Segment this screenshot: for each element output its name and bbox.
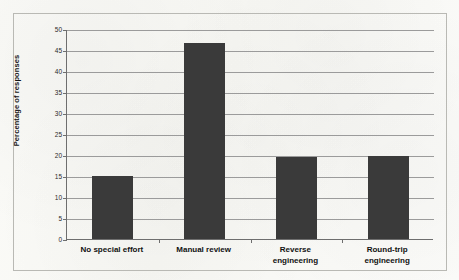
y-axis-tick: [63, 72, 67, 73]
y-axis-tick-label: 40: [40, 69, 62, 76]
y-axis-tick-label: 20: [40, 153, 62, 160]
y-axis-tick-label: 25: [40, 132, 62, 139]
y-axis-tick-label: 35: [40, 90, 62, 97]
x-axis-label-line: Reverse: [250, 245, 342, 256]
y-axis-tick: [63, 156, 67, 157]
gridline: [67, 51, 434, 52]
x-axis-tick-labels: No special effortManual reviewReverseeng…: [66, 245, 433, 275]
y-axis-title: Percentage of responses: [12, 41, 21, 161]
bar: [184, 43, 225, 239]
chart-screenshot: Percentage of responses 0510152025303540…: [0, 0, 459, 280]
y-axis-tick: [63, 177, 67, 178]
gridline: [67, 93, 434, 94]
y-axis-tick-label: 10: [40, 195, 62, 202]
y-axis-tick: [63, 51, 67, 52]
x-axis-label-line: No special effort: [66, 245, 158, 256]
y-axis-tick: [63, 219, 67, 220]
x-axis-tick: [342, 239, 343, 243]
bar: [92, 176, 133, 239]
plot-area: [66, 30, 433, 240]
gridline: [67, 30, 434, 31]
bar: [276, 157, 317, 239]
gridline: [67, 135, 434, 136]
bar: [368, 156, 409, 239]
y-axis-tick-labels: 05101520253035404550: [38, 30, 62, 240]
x-axis-category-label: No special effort: [66, 245, 158, 256]
y-axis-tick-label: 15: [40, 174, 62, 181]
x-axis-tick: [251, 239, 252, 243]
x-axis-category-label: Round-tripengineering: [341, 245, 433, 266]
x-axis-label-line: engineering: [250, 256, 342, 267]
y-axis-tick-label: 50: [40, 27, 62, 34]
y-axis-tick-label: 0: [40, 237, 62, 244]
y-axis-tick: [63, 240, 67, 241]
y-axis-tick: [63, 114, 67, 115]
gridline: [67, 114, 434, 115]
x-axis-tick: [159, 239, 160, 243]
x-axis-label-line: engineering: [341, 256, 433, 267]
y-axis-tick-label: 5: [40, 216, 62, 223]
x-axis-label-line: Round-trip: [341, 245, 433, 256]
y-axis-tick-label: 30: [40, 111, 62, 118]
x-axis-category-label: Manual review: [158, 245, 250, 256]
y-axis-tick: [63, 198, 67, 199]
x-axis-category-label: Reverseengineering: [250, 245, 342, 266]
y-axis-tick: [63, 30, 67, 31]
y-axis-tick-label: 45: [40, 48, 62, 55]
x-axis-label-line: Manual review: [158, 245, 250, 256]
y-axis-tick: [63, 135, 67, 136]
y-axis-tick: [63, 93, 67, 94]
gridline: [67, 72, 434, 73]
